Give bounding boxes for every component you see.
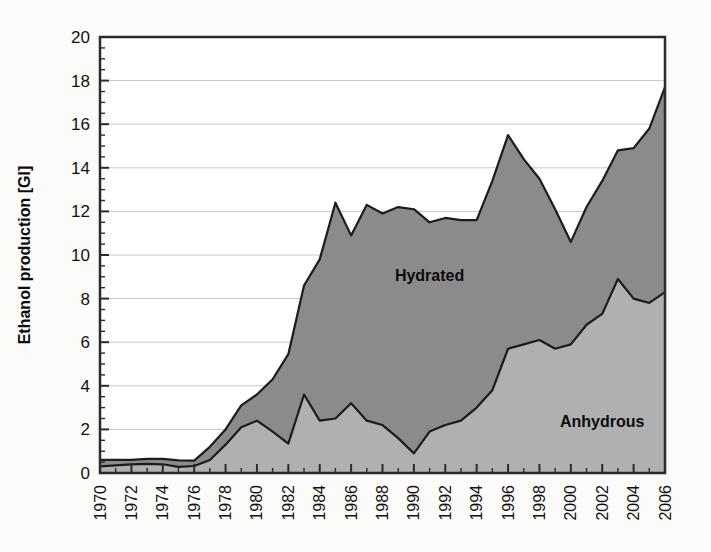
x-tick-label: 1994 bbox=[468, 485, 485, 521]
x-tick-label: 1990 bbox=[405, 485, 422, 521]
series-label-hydrated: Hydrated bbox=[395, 267, 464, 284]
x-tick-label: 2004 bbox=[625, 485, 642, 521]
x-tick-label: 1996 bbox=[500, 485, 517, 521]
x-tick-label: 1978 bbox=[217, 485, 234, 521]
x-tick-label: 1972 bbox=[123, 485, 140, 521]
y-tick-label: 4 bbox=[81, 377, 90, 396]
x-tick-label: 1974 bbox=[154, 485, 171, 521]
x-tick-label: 1970 bbox=[92, 485, 109, 521]
ethanol-production-area-chart: 02468101214161820 1970197219741976197819… bbox=[0, 0, 711, 552]
y-tick-label: 10 bbox=[71, 246, 90, 265]
y-axis-title: Ethanol production [Gl] bbox=[16, 166, 33, 345]
y-tick-label: 0 bbox=[81, 464, 90, 483]
x-tick-label: 1986 bbox=[343, 485, 360, 521]
x-tick-label: 1984 bbox=[311, 485, 328, 521]
x-tick-label: 1976 bbox=[186, 485, 203, 521]
x-tick-label: 2000 bbox=[562, 485, 579, 521]
chart-figure: 02468101214161820 1970197219741976197819… bbox=[0, 0, 711, 552]
y-tick-label: 18 bbox=[71, 72, 90, 91]
x-tick-label: 1980 bbox=[248, 485, 265, 521]
x-tick-label: 1992 bbox=[437, 485, 454, 521]
x-tick-label: 2006 bbox=[657, 485, 674, 521]
y-tick-label: 12 bbox=[71, 202, 90, 221]
x-tick-label: 2002 bbox=[594, 485, 611, 521]
y-tick-label: 6 bbox=[81, 333, 90, 352]
series-label-anhydrous: Anhydrous bbox=[560, 413, 645, 430]
x-tick-label: 1998 bbox=[531, 485, 548, 521]
x-tick-label: 1982 bbox=[280, 485, 297, 521]
y-tick-label: 2 bbox=[81, 420, 90, 439]
y-tick-label: 20 bbox=[71, 28, 90, 47]
y-tick-label: 8 bbox=[81, 290, 90, 309]
y-tick-label: 16 bbox=[71, 115, 90, 134]
y-tick-label: 14 bbox=[71, 159, 90, 178]
x-tick-label: 1988 bbox=[374, 485, 391, 521]
